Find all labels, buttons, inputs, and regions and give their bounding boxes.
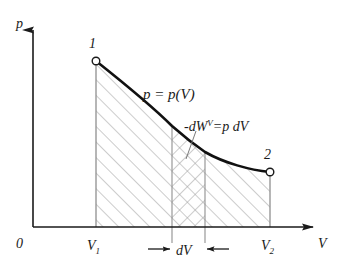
tick-label-v2: V2 — [261, 238, 275, 256]
region-dv-crosshatch — [168, 118, 210, 230]
point-label-2: 2 — [264, 147, 271, 162]
point-marker-1 — [92, 57, 100, 65]
work-label-lhs: -dW — [184, 119, 209, 134]
origin-label: 0 — [16, 236, 23, 251]
work-label-equals: = — [213, 119, 222, 134]
point-marker-2 — [266, 168, 274, 176]
tick-label-v1-sub: 1 — [96, 246, 101, 256]
region-left-hatch — [96, 55, 176, 230]
curve-equation-label: p = p(V) — [142, 86, 195, 103]
work-element-label: -dWV=p dV — [184, 118, 250, 134]
tick-label-v2-sub: 2 — [270, 246, 275, 256]
pv-diagram-svg: p V 0 1 2 V1 V2 p = p(V) -dWV=p dV dV — [0, 0, 344, 274]
x-axis-label: V — [318, 236, 328, 251]
point-label-1: 1 — [89, 36, 96, 51]
y-axis-label: p — [15, 16, 23, 31]
work-label-rhs: p dV — [221, 119, 250, 134]
pv-diagram-figure: p V 0 1 2 V1 V2 p = p(V) -dWV=p dV dV — [0, 0, 344, 274]
dv-dimension-label: dV — [176, 243, 193, 258]
tick-label-v1: V1 — [87, 238, 100, 256]
